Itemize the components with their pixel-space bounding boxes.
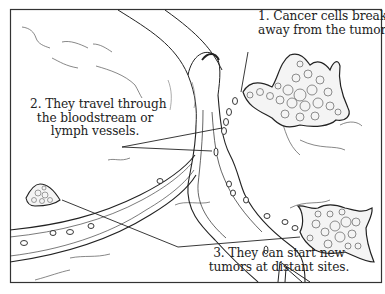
label-3-line-1: 3. They can start new (206, 247, 352, 261)
blood-vessel-diagonal (10, 155, 196, 262)
callout-label-1: 1. Cancer cells break away from the tumo… (258, 10, 376, 37)
callout-line-3a (62, 200, 178, 247)
label-3-line-2: tumors at distant sites. (206, 261, 352, 275)
label-2-line-1: 2. They travel through (30, 98, 160, 112)
callout-label-2: 2. They travel through the bloodstream o… (30, 98, 160, 139)
callout-line-2b (122, 147, 212, 151)
label-1-line-2: away from the tumor. (258, 24, 376, 38)
label-1-line-1: 1. Cancer cells break (258, 10, 376, 24)
label-2-line-2: the bloodstream or (30, 112, 160, 126)
primary-tumor (243, 54, 349, 127)
label-2-line-3: lymph vessels. (30, 125, 160, 139)
secondary-tumor-left (26, 184, 60, 206)
metastasis-illustration: 1. Cancer cells break away from the tumo… (0, 0, 385, 294)
callout-label-3: 3. They can start new tumors at distant … (206, 247, 352, 274)
callout-line-1 (241, 52, 248, 92)
